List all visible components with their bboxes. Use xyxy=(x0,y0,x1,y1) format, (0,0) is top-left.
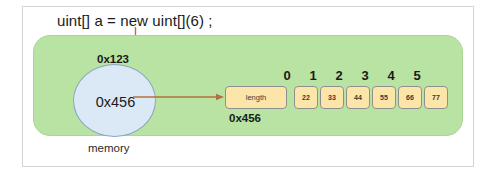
array-address-label: 0x456 xyxy=(229,112,261,124)
array-group: 0 1 2 3 4 5 length 22 33 44 55 66 77 xyxy=(225,68,275,109)
array-index-0: 0 xyxy=(275,68,299,83)
memory-label: memory xyxy=(88,142,130,154)
array-cell-0: 22 xyxy=(294,86,318,109)
array-cells-row: length 22 33 44 55 66 77 xyxy=(225,86,275,109)
array-index-2: 2 xyxy=(327,68,351,83)
array-cell-2: 44 xyxy=(346,86,370,109)
array-cell-5: 77 xyxy=(424,86,448,109)
array-cell-1: 33 xyxy=(320,86,344,109)
reference-right-arrow-icon xyxy=(133,92,225,102)
array-cell-3: 55 xyxy=(372,86,396,109)
array-index-1: 1 xyxy=(301,68,325,83)
array-index-4: 4 xyxy=(379,68,403,83)
array-cell-4: 66 xyxy=(398,86,422,109)
array-length-cell: length xyxy=(225,86,287,109)
array-index-5: 5 xyxy=(405,68,429,83)
diagram-canvas: uint[] a = new uint[](6) ; 0x123 0x456 0… xyxy=(0,0,497,176)
array-index-3: 3 xyxy=(353,68,377,83)
